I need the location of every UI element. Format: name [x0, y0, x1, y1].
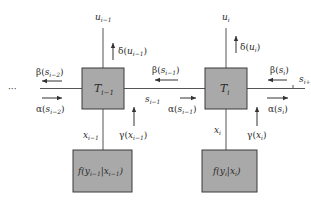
label-gamma-cur: γ(xi)	[247, 130, 266, 141]
label-delta-prev: δ(ui−1)	[118, 46, 147, 57]
label-alpha-im1: α(si−1)	[168, 104, 197, 115]
label-delta-cur: δ(ui)	[240, 42, 260, 53]
label-u-cur: ui	[222, 12, 230, 23]
ellipsis-left: ···	[8, 84, 17, 94]
label-beta-i: β(si)	[270, 65, 289, 76]
likelihood-node-cur: f(yi|xi)	[202, 150, 257, 192]
trellis-node-prev: Ti−1	[82, 68, 124, 109]
label-beta-im2: β(si−2)	[36, 67, 64, 78]
label-x-prev: xi−1	[83, 130, 99, 141]
likelihood-node-prev: f(yi−1|xi−1)	[73, 150, 132, 192]
label-x-cur: xi	[214, 125, 221, 136]
label-gamma-prev: γ(xi−1)	[119, 130, 147, 141]
trellis-node-cur: Ti	[205, 68, 247, 109]
label-alpha-im2: α(si−2)	[36, 104, 65, 115]
label-s-next: si+1	[299, 74, 311, 85]
label-s-prev: si−1	[145, 94, 160, 105]
svg-text:f(yi|xi): f(yi|xi)	[212, 166, 241, 177]
diagram-canvas: ··· Ti−1 Ti f(yi−1|xi−1) f(yi|xi) ui−1 u…	[0, 0, 311, 207]
label-u-prev: ui−1	[95, 12, 112, 23]
label-beta-im1: β(si−1)	[152, 65, 180, 76]
label-alpha-i: α(si)	[268, 104, 288, 115]
